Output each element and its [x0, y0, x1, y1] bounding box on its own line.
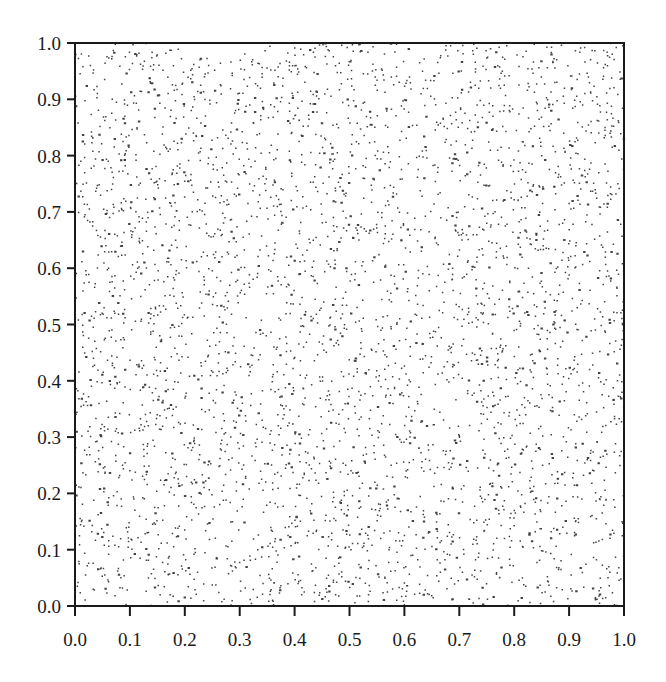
y-tick-label: 0.4 — [37, 371, 61, 392]
x-tick-label: 0.1 — [118, 629, 142, 650]
y-tick-label: 1.0 — [37, 33, 61, 54]
y-tick-label: 0.6 — [37, 258, 61, 279]
x-tick-label: 0.4 — [283, 629, 307, 650]
x-tick-label: 0.5 — [338, 629, 362, 650]
x-tick-label: 0.0 — [63, 629, 87, 650]
y-tick-label: 0.9 — [37, 89, 61, 110]
y-tick-label: 0.7 — [37, 202, 61, 223]
x-tick-label: 0.6 — [393, 629, 417, 650]
scatter-chart: 0.00.10.20.30.40.50.60.70.80.91.0 0.00.1… — [0, 0, 666, 682]
x-tick-label: 0.7 — [447, 629, 471, 650]
y-tick-label: 0.5 — [37, 315, 61, 336]
scatter-points — [74, 42, 625, 606]
x-tick-label: 1.0 — [612, 629, 636, 650]
y-tick-label: 0.3 — [37, 427, 61, 448]
x-tick-label: 0.9 — [557, 629, 581, 650]
plot-frame — [75, 43, 624, 606]
y-axis: 0.00.10.20.30.40.50.60.70.80.91.0 — [37, 33, 75, 617]
x-axis: 0.00.10.20.30.40.50.60.70.80.91.0 — [63, 606, 636, 650]
y-tick-label: 0.8 — [37, 146, 61, 167]
y-tick-label: 0.1 — [37, 540, 61, 561]
x-tick-label: 0.8 — [502, 629, 526, 650]
y-tick-label: 0.0 — [37, 596, 61, 617]
data-points — [74, 42, 625, 606]
x-tick-label: 0.2 — [173, 629, 197, 650]
y-tick-label: 0.2 — [37, 483, 61, 504]
x-tick-label: 0.3 — [228, 629, 252, 650]
